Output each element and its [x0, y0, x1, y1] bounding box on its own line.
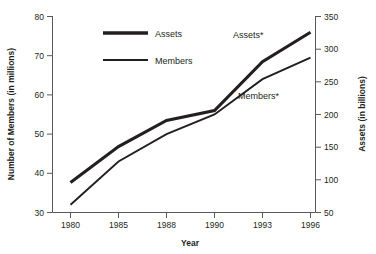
- y-tick-label-40: 40: [35, 168, 45, 178]
- line-chart: 30 40 50 60 70 80 50 100 150 200 250 300…: [0, 0, 376, 254]
- y-tick-label-60: 60: [35, 90, 45, 100]
- y2-tick-label-300: 300: [324, 44, 338, 54]
- y-tick-label-30: 30: [35, 208, 45, 218]
- x-tick-label-1993: 1993: [253, 220, 272, 230]
- y-axis-left-title: Number of Members (in millions): [6, 48, 16, 180]
- y-tick-label-70: 70: [35, 51, 45, 61]
- y2-tick-label-50: 50: [324, 208, 334, 218]
- x-tick-label-1990: 1990: [205, 220, 224, 230]
- y-axis-left-ticks: 30 40 50 60 70 80: [35, 12, 53, 218]
- y2-tick-label-350: 350: [324, 12, 338, 22]
- y2-tick-label-200: 200: [324, 110, 338, 120]
- legend-label-members: Members: [155, 56, 193, 66]
- y2-tick-label-250: 250: [324, 77, 338, 87]
- chart-legend: Assets Members: [103, 29, 193, 66]
- x-axis-ticks: 1980 1985 1988 1990 1993 1996: [61, 213, 320, 231]
- y-tick-label-50: 50: [35, 129, 45, 139]
- x-tick-label-1996: 1996: [301, 220, 320, 230]
- y2-tick-label-150: 150: [324, 142, 338, 152]
- y-tick-label-80: 80: [35, 12, 45, 22]
- x-tick-label-1985: 1985: [109, 220, 128, 230]
- x-tick-label-1980: 1980: [61, 220, 80, 230]
- x-axis-title: Year: [181, 238, 200, 248]
- y-axis-right-ticks: 50 100 150 200 250 300 350: [316, 12, 339, 218]
- y2-tick-label-100: 100: [324, 175, 338, 185]
- x-tick-label-1988: 1988: [157, 220, 176, 230]
- y-axis-right-title: Assets (in billions): [357, 76, 367, 152]
- annotation-members: Members*: [238, 91, 280, 101]
- legend-label-assets: Assets: [155, 29, 183, 39]
- series-line-members: [71, 58, 311, 205]
- annotation-assets: Assets*: [233, 30, 264, 40]
- chart-container: 30 40 50 60 70 80 50 100 150 200 250 300…: [0, 0, 376, 254]
